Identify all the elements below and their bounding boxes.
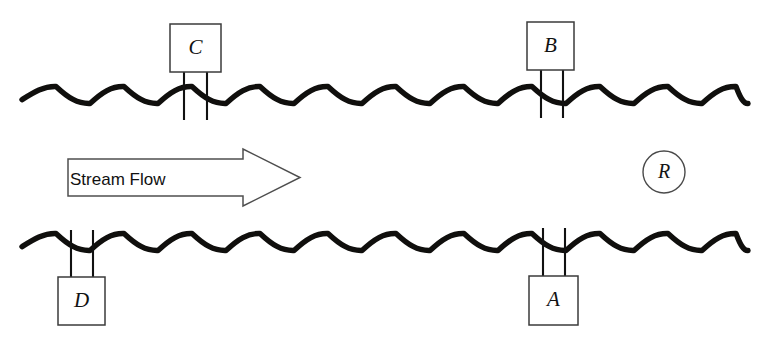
station-a-label: A (545, 287, 560, 311)
station-b-label: B (544, 33, 557, 57)
upper-stream-surface-wave (22, 86, 748, 103)
marker-r: R (643, 151, 685, 193)
stream-flow-label: Stream Flow (70, 170, 166, 189)
station-d-label: D (73, 288, 89, 312)
station-c[interactable]: C (170, 24, 221, 120)
station-c-label: C (188, 35, 203, 59)
stream-diagram: C B D A Stream Flow (0, 0, 773, 348)
lower-stream-surface-wave (22, 233, 748, 250)
station-a[interactable]: A (529, 228, 578, 325)
stream-flow-arrow: Stream Flow (68, 149, 300, 206)
diagram-canvas: C B D A Stream Flow (0, 0, 773, 348)
marker-r-label: R (657, 160, 670, 182)
